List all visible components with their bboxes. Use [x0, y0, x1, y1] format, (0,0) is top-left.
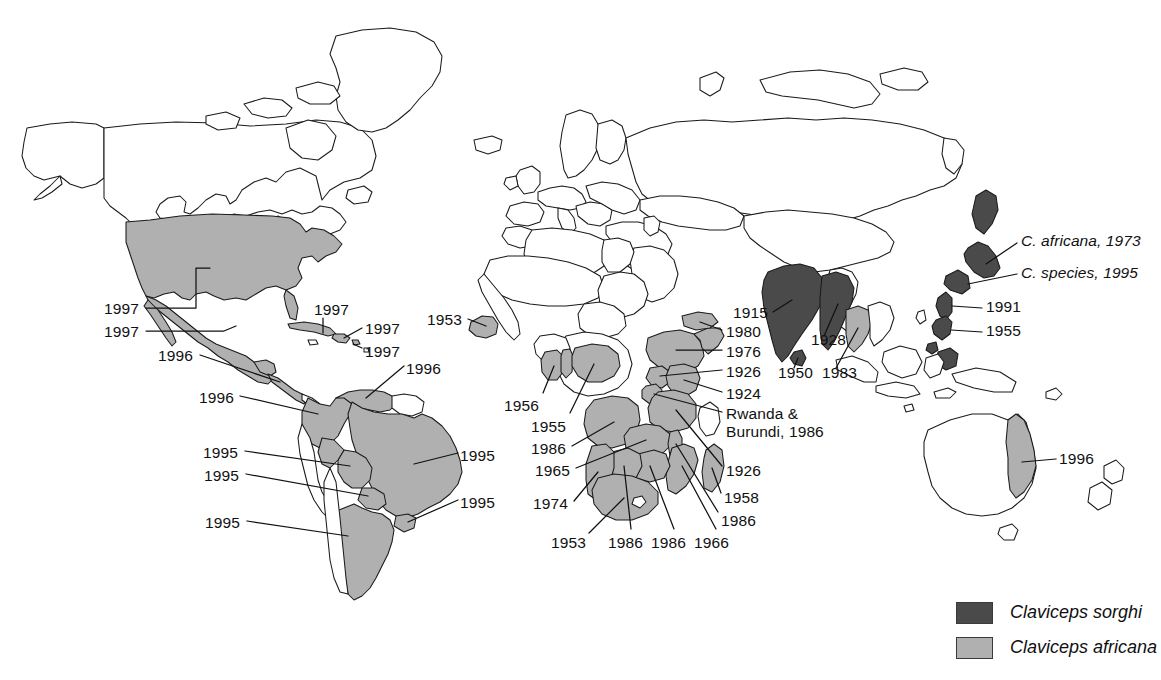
annotation-india: 1915: [733, 304, 768, 321]
annotation-korea: 1991: [986, 298, 1021, 315]
finland-outline: [596, 120, 626, 164]
pacific-islands-outline: [1046, 388, 1062, 400]
hispaniola-shape: [332, 334, 350, 343]
japan-kyushu-shape: [944, 270, 970, 294]
annotation-uruguay: 1995: [460, 494, 495, 511]
annotation-usa: 1997: [104, 300, 139, 317]
leader-korea: [952, 306, 982, 308]
ireland-outline: [504, 176, 518, 190]
korea-shape: [936, 292, 952, 320]
leader-philippines: [951, 330, 982, 332]
philippines-luzon-shape: [932, 316, 952, 340]
annotation-australia: 1996: [1059, 450, 1094, 467]
timor-outline: [934, 388, 956, 398]
british-isles-outline: [516, 166, 540, 194]
annotation-south-africa: 1953: [551, 534, 586, 551]
world-map: [0, 0, 1161, 680]
legend-label-sorghi: Claviceps sorghi: [1010, 602, 1142, 623]
annotation-hispaniola: 1997: [365, 320, 400, 337]
annotation-central-america: 1996: [158, 347, 193, 364]
annotation-ghana-togo: 1956: [504, 397, 539, 414]
annotation-yemen: 1980: [726, 323, 761, 340]
cuba-shape: [288, 322, 336, 336]
annotation-zimbabwe: 1986: [651, 534, 686, 551]
mexico-shape: [146, 296, 274, 384]
annotation-japan-africana: C. africana, 1973: [1021, 232, 1141, 249]
china-outline: [744, 210, 894, 272]
annotation-argentina: 1995: [205, 514, 240, 531]
philippines-visayas-shape: [926, 342, 938, 354]
taiwan-outline: [916, 310, 926, 324]
uruguay-shape: [394, 514, 416, 532]
florida-shape: [284, 290, 298, 320]
new-zealand-south-outline: [1088, 482, 1112, 510]
annotation-kenya: 1924: [726, 385, 761, 402]
annotation-cuba: 1997: [314, 301, 349, 318]
annotation-angola: 1986: [531, 440, 566, 457]
iberia-outline: [506, 202, 544, 226]
borneo-outline: [882, 346, 922, 378]
arctic-islands-asia-outline: [880, 68, 928, 90]
alaska-outline: [22, 122, 104, 188]
senegal-gambia-shape: [469, 316, 498, 338]
jamaica-outline: [308, 340, 318, 345]
legend-row-africana: Claviceps africana: [956, 633, 1156, 662]
guyanas-outline: [392, 394, 424, 416]
annotation-mozambique: 1966: [694, 534, 729, 551]
annotation-colombia: 1996: [199, 389, 234, 406]
yemen-shape: [682, 312, 718, 330]
annotation-venezuela: 1996: [406, 360, 441, 377]
annotation-rwanda-burundi: Rwanda & Burundi, 1986: [726, 405, 824, 442]
annotation-tanzania: 1926: [726, 462, 761, 479]
indonesia-java-outline: [876, 382, 920, 398]
annotation-uganda: 1926: [726, 363, 761, 380]
scandinavia-outline: [560, 110, 600, 178]
iceland-outline: [474, 136, 502, 154]
greenland-outline: [330, 28, 442, 132]
nigeria-shape: [572, 344, 620, 382]
new-zealand-north-outline: [1104, 460, 1124, 484]
annotation-thailand: 1983: [822, 364, 857, 381]
annotation-botswana: 1986: [608, 534, 643, 551]
annotation-japan-species: C. species, 1995: [1021, 264, 1138, 281]
legend-label-africana: Claviceps africana: [1010, 637, 1157, 658]
annotation-paraguay: 1995: [204, 467, 239, 484]
annotation-zambia: 1965: [535, 462, 570, 479]
legend-swatch-sorghi-icon: [956, 602, 993, 624]
madagascar-shape: [702, 444, 724, 492]
north-america-outlines: [22, 28, 502, 248]
legend-swatch-africana-icon: [956, 637, 993, 659]
alaska-peninsula-outline: [34, 176, 62, 200]
annotation-ethiopia: 1976: [726, 343, 761, 360]
novaya-zemlya-outline: [700, 72, 724, 96]
japan-hokkaido-shape: [972, 190, 998, 234]
annotation-senegal-gambia: 1953: [427, 311, 462, 328]
distribution-map-figure: 1997 1997 1997 1997 1997 1996 1996 1996 …: [0, 0, 1161, 680]
small-island-oceania: [904, 404, 914, 412]
annotation-puerto-rico: 1997: [365, 343, 400, 360]
ghana-togo-shape: [541, 350, 563, 380]
vietnam-laos-outline: [868, 302, 894, 346]
legend: Claviceps sorghi Claviceps africana: [956, 598, 1156, 668]
annotation-malawi: 1986: [721, 512, 756, 529]
annotation-nigeria: 1955: [531, 418, 566, 435]
siberia-coast-outline: [760, 70, 880, 108]
thailand-shape: [846, 306, 872, 352]
south-america-region: [298, 390, 462, 600]
annotation-namibia: 1974: [533, 495, 568, 512]
tasmania-outline: [998, 524, 1018, 540]
europe-outlines: [504, 110, 640, 234]
annotation-philippines: 1955: [986, 322, 1021, 339]
leader-hispaniola: [344, 328, 362, 338]
annotation-bolivia: 1995: [203, 444, 238, 461]
annotation-sri-lanka: 1950: [778, 364, 813, 381]
arctic-island-2: [296, 82, 340, 104]
annotation-mexico: 1997: [104, 323, 139, 340]
annotation-myanmar: 1928: [811, 331, 846, 348]
caribbean-region: [288, 322, 369, 352]
sulawesi-outline: [924, 354, 944, 378]
legend-row-sorghi: Claviceps sorghi: [956, 598, 1156, 627]
annotation-brazil: 1995: [460, 447, 495, 464]
annotation-madagascar: 1958: [724, 489, 759, 506]
japan-honshu-shape: [964, 242, 1000, 278]
